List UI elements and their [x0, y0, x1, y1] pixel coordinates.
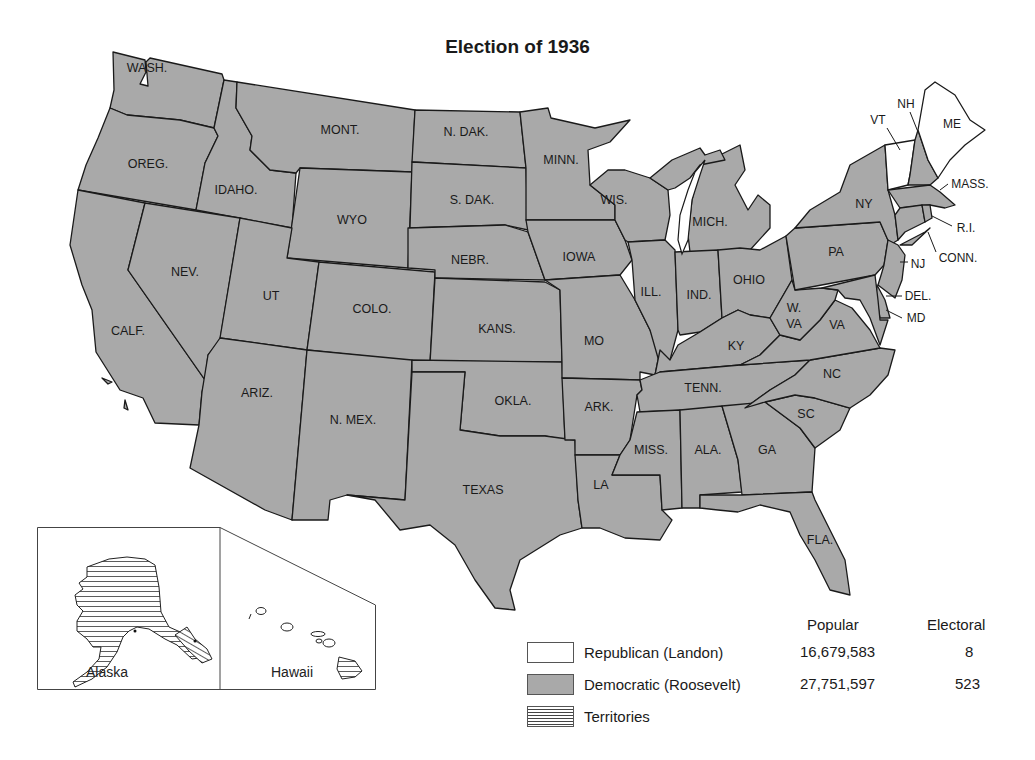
legend-label: Republican (Landon)	[584, 644, 723, 661]
state-kansas[interactable]	[430, 278, 562, 363]
label-mich: MICH.	[692, 215, 727, 229]
leader-mass	[940, 184, 948, 190]
label-nebr: NEBR.	[451, 253, 489, 267]
label-nev: NEV.	[171, 265, 199, 279]
label-ill: ILL.	[641, 285, 662, 299]
label-colo: COLO.	[353, 302, 392, 316]
label-nc: NC	[823, 367, 841, 381]
legend-header-electoral: Electoral	[927, 616, 985, 633]
label-oreg: OREG.	[128, 157, 168, 171]
legend-label: Territories	[584, 708, 650, 725]
label-conn: CONN.	[939, 251, 978, 265]
label-ala: ALA.	[694, 443, 721, 457]
label-texas: TEXAS	[463, 483, 504, 497]
label-ariz: ARIZ.	[241, 386, 273, 400]
label-md: MD	[907, 311, 926, 325]
label-fla: FLA.	[807, 533, 833, 547]
state-new-mexico[interactable]	[292, 350, 412, 520]
label-ind: IND.	[687, 288, 712, 302]
legend-label: Democratic (Roosevelt)	[584, 676, 741, 693]
republican-popular: 16,679,583	[800, 643, 875, 660]
legend-row-democratic: Democratic (Roosevelt)	[527, 672, 741, 696]
legend-row-republican: Republican (Landon)	[527, 640, 723, 664]
label-ky: KY	[728, 339, 745, 353]
state-north-dakota[interactable]	[412, 110, 526, 168]
alaska-dot	[134, 630, 137, 633]
label-iowa: IOWA	[563, 250, 597, 264]
label-calf: CALF.	[111, 324, 145, 338]
label-ark: ARK.	[584, 400, 613, 414]
label-mass: MASS.	[951, 177, 988, 191]
alaska-label: Alaska	[86, 664, 128, 680]
label-me: ME	[943, 117, 961, 131]
state-arizona[interactable]	[190, 338, 307, 520]
label-wis: WIS.	[600, 193, 627, 207]
label-pa: PA	[828, 245, 844, 259]
label-ohio: OHIO	[733, 273, 765, 287]
label-ga: GA	[758, 443, 777, 457]
democratic-swatch	[527, 674, 574, 695]
label-vt: VT	[870, 113, 886, 127]
label-nmex: N. MEX.	[330, 413, 377, 427]
label-ri: R.I.	[957, 221, 976, 235]
label-miss: MISS.	[634, 443, 668, 457]
hawaii-label: Hawaii	[271, 664, 313, 680]
territories-swatch	[527, 706, 574, 727]
republican-swatch	[527, 642, 574, 663]
democratic-popular: 27,751,597	[800, 675, 875, 692]
legend: Popular Electoral Republican (Landon) 16…	[527, 610, 1017, 760]
label-wash: WASH.	[127, 61, 168, 75]
legend-row-territories: Territories	[527, 704, 650, 728]
label-sdak: S. DAK.	[450, 193, 494, 207]
label-la: LA	[593, 478, 609, 492]
label-wyo: WYO	[337, 213, 367, 227]
label-mont: MONT.	[321, 123, 360, 137]
label-wva-line2: VA	[786, 317, 802, 331]
label-del: DEL.	[905, 289, 932, 303]
label-minn: MINN.	[543, 153, 578, 167]
leader-nh	[910, 112, 918, 132]
label-okla: OKLA.	[495, 394, 532, 408]
legend-header-popular: Popular	[807, 616, 859, 633]
republican-electoral: 8	[965, 643, 973, 660]
label-va: VA	[829, 318, 845, 332]
label-ut: UT	[263, 289, 280, 303]
label-wva-line1: W.	[787, 301, 802, 315]
label-nj: NJ	[911, 257, 926, 271]
label-sc: SC	[797, 407, 814, 421]
juneau-dot	[194, 640, 197, 643]
territories-inset: Alaska Hawaii	[37, 527, 376, 690]
label-nh: NH	[897, 97, 914, 111]
label-ny: NY	[855, 197, 873, 211]
label-ndak: N. DAK.	[443, 125, 488, 139]
label-tenn: TENN.	[684, 381, 722, 395]
leader-conn	[928, 232, 936, 252]
leader-ri	[932, 216, 952, 226]
label-kans: KANS.	[478, 322, 516, 336]
democratic-electoral: 523	[955, 675, 980, 692]
label-mo: MO	[584, 334, 604, 348]
label-idaho: IDAHO.	[214, 183, 257, 197]
